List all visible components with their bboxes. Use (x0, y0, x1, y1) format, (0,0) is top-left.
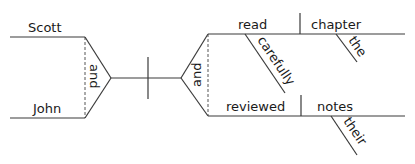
verb-read: read (238, 17, 267, 32)
modifier-their: their (341, 114, 371, 148)
object-notes: notes (317, 99, 353, 114)
modifier-the: the (346, 33, 370, 59)
diagram-canvas: Scott John and and read chapter carefull… (0, 0, 415, 164)
sentence-diagram: Scott John and and read chapter carefull… (0, 0, 415, 164)
object-chapter: chapter (311, 17, 362, 32)
subject-word-scott: Scott (28, 20, 62, 35)
subject-conjunction-and: and (87, 64, 102, 88)
verb-reviewed: reviewed (226, 99, 285, 114)
subject-word-john: John (32, 101, 61, 116)
predicate-conjunction-and: and (189, 63, 204, 87)
